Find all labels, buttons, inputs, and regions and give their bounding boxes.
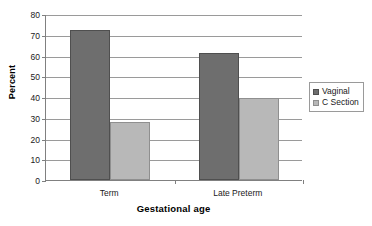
legend-swatch-icon [313,100,319,106]
legend-item[interactable]: Vaginal [313,86,359,97]
plot-inner: 01020304050607080 [46,15,302,180]
x-axis-tick-mark [303,180,304,184]
x-axis-category-label: Term [100,188,119,198]
plot-area: 01020304050607080 [45,15,302,181]
legend-swatch-icon [313,89,319,95]
y-axis-tick-label: 80 [31,10,40,20]
bar-chart: Percent 01020304050607080 TermLate Prete… [0,0,372,226]
bar-c-section-term [110,122,150,180]
y-axis-tick-label: 70 [31,31,40,41]
x-axis-title: Gestational age [45,203,302,214]
y-axis-tick-mark [42,36,46,37]
y-axis-tick-label: 20 [31,135,40,145]
y-axis-tick-label: 30 [31,114,40,124]
y-axis-tick-label: 40 [31,93,40,103]
y-axis-tick-mark [42,181,46,182]
legend-item-label: Vaginal [322,86,350,97]
y-axis-tick-label: 10 [31,155,40,165]
y-axis-tick-label: 50 [31,72,40,82]
chart-legend: VaginalC Section [309,82,364,112]
y-axis-title: Percent [7,46,17,118]
y-axis-tick-label: 60 [31,52,40,62]
y-axis-tick-mark [42,140,46,141]
bar-c-section-late-preterm [239,98,279,180]
legend-item[interactable]: C Section [313,97,359,108]
x-axis-tick-mark [175,180,176,184]
legend-item-label: C Section [322,97,359,108]
y-axis-tick-mark [42,160,46,161]
y-axis-tick-mark [42,119,46,120]
y-axis-tick-mark [42,77,46,78]
y-axis-tick-mark [42,57,46,58]
gridline [46,15,302,16]
x-axis-category-label: Late Preterm [213,188,262,198]
bar-vaginal-term [70,30,110,180]
y-axis-tick-mark [42,98,46,99]
bar-vaginal-late-preterm [199,53,239,180]
y-axis-tick-mark [42,15,46,16]
y-axis-tick-label: 0 [35,176,40,186]
